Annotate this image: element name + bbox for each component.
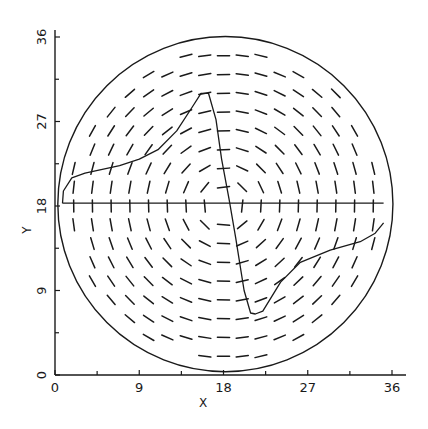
field-dash [181, 259, 191, 266]
field-dash [372, 238, 375, 250]
field-dash [164, 163, 170, 173]
field-dash [217, 224, 229, 225]
field-dash [126, 126, 133, 136]
field-dash [90, 257, 95, 268]
field-dash [354, 181, 356, 193]
field-dash [255, 336, 267, 339]
field-dash [90, 144, 95, 155]
field-dash [274, 297, 285, 303]
field-dash [236, 148, 248, 152]
field-dash [217, 243, 229, 244]
field-dash [335, 181, 337, 193]
field-dash [278, 181, 282, 193]
field-dash [351, 276, 357, 286]
field-dash [163, 258, 172, 267]
field-dash [255, 128, 266, 133]
field-dash [352, 126, 358, 137]
field-dash [108, 276, 115, 286]
field-dash [332, 107, 340, 116]
field-dash [201, 183, 209, 192]
field-dash [316, 181, 318, 193]
field-dash [199, 241, 210, 247]
field-dash [107, 295, 115, 304]
field-dash [274, 109, 284, 115]
field-dash [237, 166, 248, 171]
field-dash [275, 258, 284, 266]
field-dash [162, 277, 172, 284]
field-dash [127, 257, 133, 267]
field-dash [334, 163, 338, 175]
field-dash [274, 72, 285, 77]
field-dash [162, 316, 173, 322]
field-dash [199, 55, 211, 57]
field-dash [261, 200, 262, 212]
field-dash [129, 219, 132, 231]
field-dash [129, 181, 131, 193]
field-dash [144, 90, 154, 97]
field-dash [126, 296, 135, 305]
x-axis-title: X [199, 396, 207, 410]
field-dash [204, 200, 205, 212]
field-dash [313, 126, 321, 136]
field-dash [352, 257, 357, 268]
field-dash [255, 279, 266, 284]
field-dash [72, 163, 75, 175]
field-dash [296, 238, 302, 249]
field-dash [255, 110, 266, 114]
field-dash [162, 335, 173, 340]
field-dash [274, 316, 285, 321]
x-axis-ticks: 09182736 [51, 370, 400, 395]
field-dash [293, 72, 304, 78]
field-dash [162, 109, 172, 116]
x-tick-label: 9 [135, 380, 143, 395]
field-dash [90, 126, 96, 137]
field-dash [166, 181, 169, 193]
field-dash [199, 355, 211, 357]
field-dash [373, 181, 374, 193]
field-dash [256, 239, 265, 247]
field-dash [199, 299, 211, 302]
boundary-circle [58, 37, 393, 372]
x-tick-label: 27 [299, 380, 316, 395]
field-dash [354, 219, 356, 231]
field-dash [258, 220, 264, 231]
field-dash [163, 127, 173, 135]
field-dash [257, 164, 266, 173]
field-dash [236, 74, 248, 76]
field-dash [125, 89, 134, 97]
field-dash [293, 315, 303, 322]
field-dash [73, 181, 74, 193]
field-dash [92, 219, 94, 231]
field-dash [278, 219, 282, 230]
field-dash [237, 241, 248, 246]
field-dash [162, 297, 172, 303]
field-dash [238, 221, 247, 229]
field-dash [236, 92, 248, 94]
field-dash [144, 108, 153, 116]
field-dash [199, 318, 211, 320]
field-dash [313, 276, 321, 285]
field-dash [297, 219, 300, 231]
field-dash [255, 91, 267, 95]
field-dash [107, 107, 115, 116]
field-dash [256, 259, 266, 265]
field-dash [255, 355, 267, 358]
field-dash [143, 71, 153, 77]
field-dash [126, 108, 134, 117]
field-dash [144, 296, 153, 304]
field-dash [109, 163, 113, 175]
field-dash [109, 144, 114, 155]
x-tick-label: 36 [384, 380, 401, 395]
field-dash [181, 128, 192, 134]
x-tick-label: 0 [51, 380, 59, 395]
field-dash [295, 145, 302, 155]
field-dash [372, 163, 375, 175]
field-dash [315, 238, 320, 249]
field-dash [332, 276, 339, 286]
field-dash [255, 73, 267, 76]
field-dash [353, 163, 356, 175]
field-dash [181, 278, 192, 284]
field-dash [200, 165, 211, 171]
field-dash [184, 182, 189, 193]
field-dash [258, 182, 263, 193]
